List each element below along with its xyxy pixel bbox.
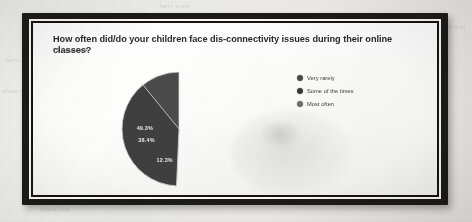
legend-color-swatch-icon xyxy=(297,101,303,107)
scanned-page: a tiny faded line of show-through text f… xyxy=(0,0,472,222)
legend-color-swatch-icon xyxy=(297,88,303,94)
response-count: 73 responses xyxy=(53,47,88,53)
frame-mat: How often did/do your children face dis-… xyxy=(33,23,437,195)
page-smudge-core xyxy=(259,119,301,149)
pie-chart-svg: 49.3%12.3%38.4% xyxy=(119,69,239,189)
chart-legend: Very rarelySome of the timesMost often xyxy=(297,73,354,112)
legend-item-label: Some of the times xyxy=(307,88,354,94)
form-response-card: How often did/do your children face dis-… xyxy=(33,23,437,195)
legend-item-label: Very rarely xyxy=(307,75,335,81)
ghost-text-line: faded line xyxy=(40,206,70,212)
pie-slice-label: 49.3% xyxy=(137,125,153,131)
picture-frame: How often did/do your children face dis-… xyxy=(22,13,448,205)
legend-item[interactable]: Some of the times xyxy=(297,86,354,97)
legend-item[interactable]: Very rarely xyxy=(297,73,354,84)
question-title: How often did/do your children face dis-… xyxy=(53,34,403,56)
legend-color-swatch-icon xyxy=(297,75,303,81)
ghost-text-line: faint mark xyxy=(160,3,190,9)
pie-slice-label: 12.3% xyxy=(157,157,173,163)
legend-item[interactable]: Most often xyxy=(297,99,354,110)
pie-slice-label: 38.4% xyxy=(138,137,154,143)
pie-chart: 49.3%12.3%38.4% xyxy=(119,69,239,189)
legend-item-label: Most often xyxy=(307,101,334,107)
